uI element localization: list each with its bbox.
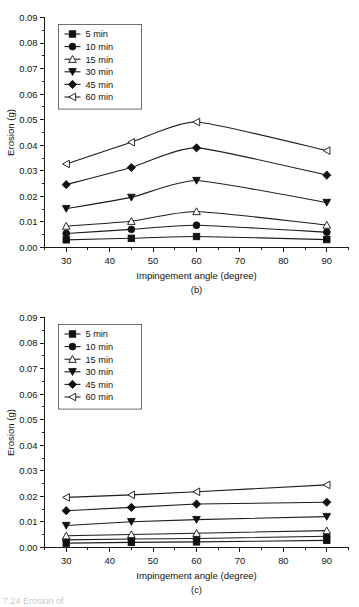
y-tick-label: 0.09 — [19, 12, 37, 23]
series-45-min — [62, 498, 331, 515]
y-axis: 0.000.010.020.030.040.050.060.070.080.09 — [19, 12, 44, 253]
data-point — [128, 138, 135, 146]
data-point — [192, 144, 200, 152]
legend-label: 60 min — [86, 92, 114, 102]
legend-label: 45 min — [86, 380, 114, 390]
x-tick-label: 80 — [278, 255, 288, 266]
legend-sample-marker — [69, 331, 75, 337]
x-tick-label: 50 — [148, 555, 158, 566]
x-axis: 30405060708090 — [45, 548, 349, 566]
legend-sample-marker — [69, 43, 76, 50]
legend-label: 15 min — [86, 55, 114, 65]
y-tick-label: 0.01 — [19, 516, 37, 527]
x-tick-label: 30 — [61, 555, 71, 566]
erosion-figure: 0.000.010.020.030.040.050.060.070.080.09… — [0, 0, 359, 607]
data-point — [323, 171, 331, 179]
legend-label: 15 min — [86, 355, 114, 365]
series-60-min — [63, 118, 330, 168]
x-tick-label: 60 — [191, 255, 201, 266]
data-point — [324, 236, 330, 242]
legend-label: 10 min — [86, 342, 114, 352]
data-point — [62, 181, 70, 189]
x-tick-label: 80 — [278, 555, 288, 566]
data-point — [127, 163, 135, 171]
x-tick-label: 90 — [322, 255, 332, 266]
y-tick-label: 0.06 — [19, 389, 37, 400]
data-point — [63, 230, 70, 237]
legend-label: 5 min — [86, 29, 108, 39]
legend-label: 60 min — [86, 392, 114, 402]
y-tick-label: 0.04 — [19, 140, 37, 151]
y-tick-label: 0.05 — [19, 414, 37, 425]
data-point — [323, 498, 331, 506]
y-tick-label: 0.07 — [19, 63, 37, 74]
data-point — [62, 507, 70, 515]
x-tick-label: 40 — [104, 255, 114, 266]
legend-label: 30 min — [86, 67, 114, 77]
y-axis-title: Erosion (g) — [5, 409, 16, 456]
x-tick-label: 70 — [235, 555, 245, 566]
data-point — [193, 118, 200, 126]
legend-sample-marker — [69, 343, 76, 350]
legend: 5 min10 min15 min30 min45 min60 min — [59, 25, 142, 110]
chart-c-canvas: 0.000.010.020.030.040.050.060.070.080.09… — [0, 300, 359, 600]
y-axis: 0.000.010.020.030.040.050.060.070.080.09 — [19, 312, 44, 553]
data-point — [128, 235, 134, 241]
data-point — [323, 229, 330, 236]
x-tick-label: 70 — [235, 255, 245, 266]
legend-sample-marker — [69, 31, 75, 37]
y-tick-label: 0.08 — [19, 37, 37, 48]
series-60-min — [63, 481, 330, 501]
x-tick-label: 30 — [61, 255, 71, 266]
y-axis-title: Erosion (g) — [5, 109, 16, 156]
panel-subcaption: (b) — [191, 284, 202, 295]
chart-panel-b: 0.000.010.020.030.040.050.060.070.080.09… — [0, 0, 359, 300]
data-point — [63, 237, 69, 243]
panel-subcaption: (c) — [191, 584, 202, 595]
y-tick-label: 0.08 — [19, 337, 37, 348]
legend-label: 30 min — [86, 367, 114, 377]
x-tick-label: 60 — [191, 555, 201, 566]
legend-label: 10 min — [86, 42, 114, 52]
x-tick-label: 40 — [104, 555, 114, 566]
legend-label: 45 min — [86, 80, 114, 90]
data-point — [128, 226, 135, 233]
legend: 5 min10 min15 min30 min45 min60 min — [59, 325, 142, 410]
y-tick-label: 0.07 — [19, 363, 37, 374]
data-point — [193, 233, 199, 239]
x-tick-label: 90 — [322, 555, 332, 566]
y-tick-label: 0.04 — [19, 440, 37, 451]
data-point — [323, 199, 331, 206]
y-tick-label: 0.01 — [19, 216, 37, 227]
y-tick-label: 0.02 — [19, 491, 37, 502]
legend-label: 5 min — [86, 329, 108, 339]
y-tick-label: 0.02 — [19, 191, 37, 202]
data-point — [193, 488, 200, 496]
y-tick-label: 0.03 — [19, 165, 37, 176]
series-5-min — [63, 233, 330, 243]
y-tick-label: 0.09 — [19, 312, 37, 323]
y-tick-label: 0.03 — [19, 465, 37, 476]
x-axis: 30405060708090 — [45, 248, 349, 266]
data-point — [127, 503, 135, 511]
x-tick-label: 50 — [148, 255, 158, 266]
y-tick-label: 0.00 — [19, 542, 37, 553]
x-axis-title: Impingement angle (degree) — [136, 570, 257, 581]
data-point — [63, 494, 70, 502]
chart-panel-c: 0.000.010.020.030.040.050.060.070.080.09… — [0, 300, 359, 600]
data-point — [323, 147, 330, 155]
y-tick-label: 0.06 — [19, 89, 37, 100]
data-point — [193, 222, 200, 229]
data-point — [128, 491, 135, 499]
x-axis-title: Impingement angle (degree) — [136, 270, 257, 281]
y-tick-label: 0.00 — [19, 242, 37, 253]
data-point — [62, 205, 70, 212]
data-point — [192, 500, 200, 508]
chart-b-canvas: 0.000.010.020.030.040.050.060.070.080.09… — [0, 0, 359, 300]
series-30-min — [62, 513, 330, 529]
data-point — [323, 481, 330, 489]
cropped-figure-caption: 7.24 Erosion of — [3, 596, 153, 607]
data-point — [63, 160, 70, 168]
y-tick-label: 0.05 — [19, 114, 37, 125]
series-line — [66, 122, 327, 164]
